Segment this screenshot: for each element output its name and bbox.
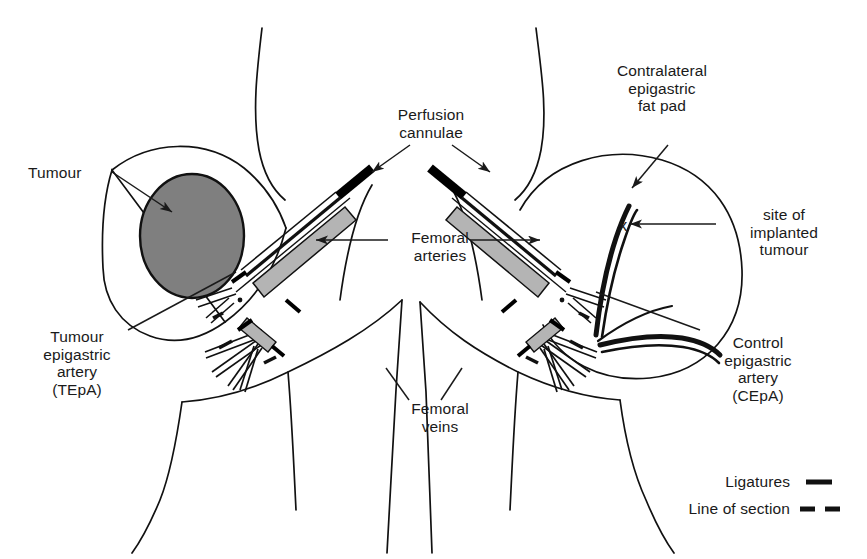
label-site-of-implanted-tumour: site of implanted tumour [722, 206, 846, 259]
label-contralateral-fat-pad: Contralateral epigastric fat pad [592, 62, 732, 115]
leader-cannula-left [372, 145, 410, 172]
leader-cannula-right [452, 145, 490, 172]
label-femoral-arteries: Femoral arteries [392, 229, 488, 264]
implant-site-marker: x [619, 216, 628, 235]
label-tumour: Tumour [28, 164, 81, 182]
legend-swatches [800, 482, 840, 509]
label-tumour-epigastric-artery: Tumour epigastric artery (TEpA) [18, 328, 136, 398]
right-vascular-bundle [430, 168, 606, 392]
leader-fatpad [632, 145, 668, 188]
label-control-epigastric-artery: Control epigastric artery (CEpA) [700, 334, 816, 404]
figure-canvas: x Tumour Tumour epigastric artery (TEpA)… [0, 0, 867, 559]
leader-cepa [596, 292, 700, 330]
leader-fem-vein-right [441, 368, 462, 400]
tumour-mass [140, 174, 244, 298]
legend-label-ligatures: Ligatures [650, 473, 790, 491]
label-perfusion-cannulae: Perfusion cannulae [372, 106, 490, 141]
legend-label-line-of-section: Line of section [630, 500, 790, 518]
label-femoral-veins: Femoral veins [392, 400, 488, 435]
